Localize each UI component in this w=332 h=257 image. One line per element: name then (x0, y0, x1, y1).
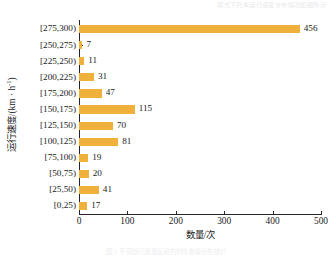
bar-row: 31 (79, 69, 321, 85)
bar-value-label: 456 (300, 24, 318, 33)
y-axis-category-label: [0,25) (0, 201, 76, 210)
bar-row: 41 (79, 182, 321, 198)
y-axis-title: 运行速度/(km · h-1) (8, 50, 17, 180)
scan-bleed-bottom-text: 图 5 不同运行速度区间的列车数量分布统计 (0, 247, 332, 257)
x-axis-line (79, 214, 322, 215)
bar[interactable] (79, 170, 89, 178)
bar[interactable] (79, 122, 113, 130)
x-axis-tick-mark (176, 211, 177, 214)
y-axis-category-label: [250,275) (0, 41, 76, 50)
bar-row: 17 (79, 198, 321, 214)
x-axis-tick-mark (127, 211, 128, 214)
plot-area: 1741201981701154731117456 (79, 21, 321, 214)
x-axis-tick-mark (321, 211, 322, 214)
bar-row: 81 (79, 134, 321, 150)
bar[interactable] (79, 25, 300, 33)
x-axis-title: 数量/次 (79, 231, 322, 240)
bar[interactable] (79, 202, 87, 210)
x-axis-tick-label: 400 (253, 217, 293, 226)
bar-value-label: 47 (102, 89, 115, 98)
x-axis-tick-label: 0 (59, 217, 99, 226)
bar-row: 7 (79, 37, 321, 53)
x-axis-tick-label: 200 (156, 217, 196, 226)
bar[interactable] (79, 73, 94, 81)
bar-value-label: 31 (94, 73, 107, 82)
bar[interactable] (79, 138, 118, 146)
bar-value-label: 70 (113, 121, 126, 130)
y-axis-category-label: [275,300) (0, 24, 76, 33)
bar-value-label: 41 (99, 185, 112, 194)
bar-row: 19 (79, 150, 321, 166)
x-axis-tick-label: 500 (301, 217, 332, 226)
scan-bleed-top-text: 模式下列车运行速度分布情况如图所示 (0, 0, 332, 9)
bar-row: 20 (79, 166, 321, 182)
bar-row: 115 (79, 101, 321, 117)
y-axis-title-main: 运行速度/(km · h (7, 86, 17, 152)
bar-row: 70 (79, 118, 321, 134)
bar-chart-figure: 模式下列车运行速度分布情况如图所示 [0,25)[25,50)[50,75)[7… (0, 0, 332, 257)
bar-value-label: 20 (89, 169, 102, 178)
bar-row: 11 (79, 53, 321, 69)
bar-value-label: 81 (118, 137, 131, 146)
x-axis-tick-mark (224, 211, 225, 214)
bar[interactable] (79, 154, 88, 162)
bar-value-label: 7 (82, 41, 91, 50)
x-axis-tick-label: 300 (204, 217, 244, 226)
bar[interactable] (79, 186, 99, 194)
bar-row: 456 (79, 21, 321, 37)
bar[interactable] (79, 89, 102, 97)
bar-value-label: 115 (135, 105, 152, 114)
bar-row: 47 (79, 85, 321, 101)
bar-value-label: 19 (88, 153, 101, 162)
y-axis-title-exponent: -1 (5, 80, 12, 86)
y-axis-category-label: [25,50) (0, 185, 76, 194)
bar-value-label: 11 (84, 57, 97, 66)
x-axis-tick-mark (273, 211, 274, 214)
bar[interactable] (79, 105, 135, 113)
x-axis-tick-mark (79, 211, 80, 214)
y-axis-title-tail: ) (7, 77, 17, 80)
bar-value-label: 17 (87, 201, 100, 210)
x-axis-tick-label: 100 (107, 217, 147, 226)
